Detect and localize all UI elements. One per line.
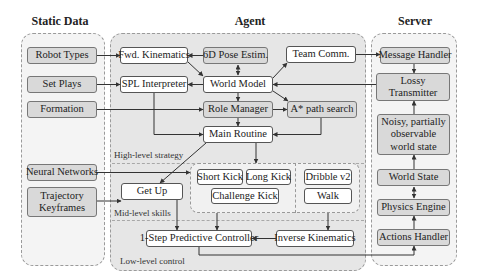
a-star-path-search-box: A* path search <box>287 101 357 118</box>
world-model-box: World Model <box>203 76 273 93</box>
long-kick-box: Long Kick <box>246 169 291 185</box>
fwd-kinematics-box: Fwd. Kinematics <box>120 47 188 64</box>
main-routine-box: Main Routine <box>203 126 273 143</box>
static-data-title: Static Data <box>20 14 100 29</box>
static-data-panel <box>21 33 105 266</box>
set-plays-box: Set Plays <box>27 76 97 93</box>
lossy-transmitter-box: Lossy Transmitter <box>376 73 450 101</box>
mid-level-separator <box>112 220 364 221</box>
walk-box: Walk <box>304 188 352 204</box>
role-manager-box: Role Manager <box>203 101 273 118</box>
robot-types-box: Robot Types <box>27 47 97 64</box>
physics-engine-box: Physics Engine <box>377 199 450 216</box>
actions-handler-box: Actions Handler <box>377 229 450 246</box>
low-level-label: Low-level control <box>120 256 185 266</box>
get-up-box: Get Up <box>121 183 183 200</box>
skill-group-divider <box>295 163 296 213</box>
inverse-kinematics-box: Inverse Kinematics <box>276 230 354 247</box>
message-handler-box: Message Handler <box>380 47 450 64</box>
trajectory-keyframes-box: Trajectory Keyframes <box>27 187 97 217</box>
server-title: Server <box>380 14 450 29</box>
formation-box: Formation <box>27 101 97 118</box>
world-state-box: World State <box>377 169 450 186</box>
dribble-box: Dribble v2 <box>304 169 352 185</box>
team-comm-box: Team Comm. <box>286 46 356 63</box>
neural-networks-box: Neural Networks <box>27 164 97 181</box>
predictive-controller-box: 1-Step Predictive Controller <box>146 230 252 247</box>
high-level-label: High-level strategy <box>114 150 183 160</box>
noisy-world-state-box: Noisy, partially observable world state <box>377 114 450 155</box>
spl-interpreter-box: SPL Interpreter <box>120 76 188 93</box>
short-kick-box: Short Kick <box>197 169 243 185</box>
mid-level-label: Mid-level skills <box>114 208 171 218</box>
agent-title: Agent <box>220 14 280 29</box>
challenge-kick-box: Challenge Kick <box>211 188 279 204</box>
pose-estimation-box: 6D Pose Estim. <box>203 47 268 64</box>
